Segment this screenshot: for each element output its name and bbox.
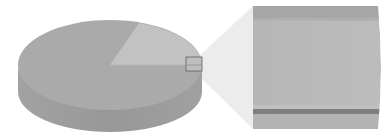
panel-light-band xyxy=(253,105,380,109)
panel-bottom-band xyxy=(253,114,380,129)
magnifier-panel xyxy=(253,6,385,129)
magnifier-source-box xyxy=(186,57,202,71)
chart-canvas xyxy=(0,0,385,136)
panel-dark-line xyxy=(253,109,380,114)
panel-top-band xyxy=(253,6,380,18)
magnifier-connector xyxy=(195,6,253,129)
pie-3d xyxy=(18,20,202,132)
